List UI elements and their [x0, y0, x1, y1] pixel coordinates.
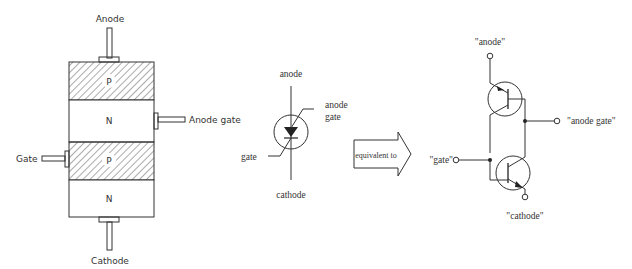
- scr-symbol: anode anode gate gate cathode: [241, 69, 348, 200]
- equiv-cathode-label: "cathode": [506, 211, 543, 221]
- equiv-anode-gate-label: "anode gate": [567, 116, 616, 126]
- anode-terminal-label: Anode: [96, 14, 125, 24]
- diagram-canvas: Anode P N Anode gate P Gate N Cathode an…: [0, 0, 632, 269]
- equivalent-arrow: equivalent to: [354, 132, 411, 176]
- symbol-gate-label: gate: [241, 152, 257, 162]
- equivalent-to-label: equivalent to: [355, 151, 397, 160]
- anode-lead: [107, 28, 112, 58]
- anode-gate-terminal-label: Anode gate: [189, 115, 241, 125]
- symbol-anode-label: anode: [280, 69, 303, 79]
- pnpn-structure: Anode P N Anode gate P Gate N Cathode: [16, 14, 241, 266]
- symbol-cathode-label: cathode: [276, 190, 306, 200]
- anode-gate-lead: [158, 117, 185, 122]
- cathode-terminal-icon: [522, 194, 528, 200]
- anode-terminal-icon: [487, 53, 493, 59]
- pnp-base-wire: [508, 99, 525, 145]
- symbol-anode-gate-lead: [291, 109, 314, 128]
- gate-contact: [65, 151, 69, 167]
- layer-n-top-label: N: [106, 116, 113, 126]
- two-transistor-equivalent: "anode" "anode gate" "gate" "cathode": [429, 37, 615, 221]
- gate-terminal-label: Gate: [16, 154, 38, 164]
- npn-collector: [508, 157, 525, 167]
- gate-lead: [42, 156, 65, 161]
- symbol-anode-gate-label-2: gate: [325, 112, 341, 122]
- equiv-gate-label: "gate": [429, 155, 453, 165]
- anode-gate-terminal-icon: [554, 118, 560, 124]
- npn-transistor-circle: [496, 156, 530, 190]
- cathode-lead: [107, 222, 112, 250]
- npn-emitter-arrow-icon: [515, 181, 523, 188]
- equiv-anode-label: "anode": [475, 37, 506, 47]
- diode-triangle-icon: [284, 127, 298, 137]
- layer-p-bottom-label: P: [106, 156, 112, 166]
- cathode-terminal-label: Cathode: [91, 256, 129, 266]
- symbol-anode-gate-label-1: anode: [325, 100, 348, 110]
- anode-gate-contact: [154, 113, 158, 129]
- layer-p-top-label: P: [106, 77, 112, 87]
- gate-terminal-icon: [453, 157, 459, 163]
- layer-n-bottom-label: N: [106, 194, 113, 204]
- symbol-gate-lead: [268, 138, 291, 156]
- cathode-contact: [99, 217, 119, 222]
